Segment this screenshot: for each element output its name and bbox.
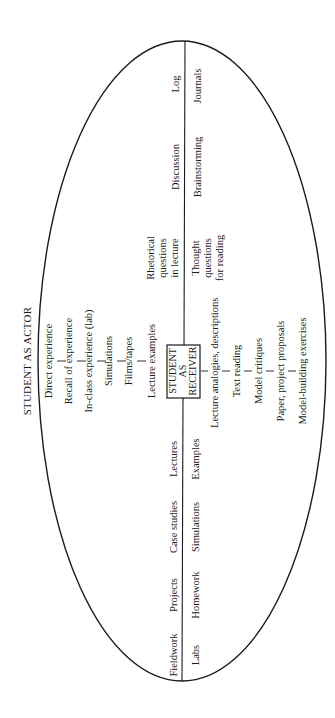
- chain-item: Simulations: [103, 336, 114, 386]
- chain-item: Paper, project proposals: [275, 321, 286, 422]
- chain-item: Text reading: [231, 344, 242, 397]
- axis-label-simulations: Simulations: [190, 502, 201, 552]
- axis-label-rhetorical: in lecture: [169, 238, 180, 278]
- chain-item: Recall of experience: [63, 318, 74, 405]
- title-student-as-actor: STUDENT AS ACTOR: [21, 306, 33, 415]
- axis-label-rhetorical: Rhetorical: [145, 236, 156, 280]
- axis-label-thought: Thought: [190, 240, 201, 276]
- axis-label-labs: Labs: [190, 645, 201, 665]
- chain-item: Model critiques: [253, 338, 264, 404]
- chain-item: Model-building exercises: [297, 317, 308, 424]
- receiver-chain: Lecture analogies, descriptions Text rea…: [201, 298, 308, 428]
- axis-label-log: Log: [170, 75, 181, 93]
- axis-label-brainstorming: Brainstorming: [192, 136, 203, 197]
- axis-label-homework: Homework: [190, 571, 201, 619]
- axis-lower-line: [182, 398, 183, 681]
- chain-item: Direct experience: [43, 323, 54, 398]
- axis-label-journals: Journals: [192, 69, 203, 104]
- chain-item: Lecture examples: [146, 324, 157, 398]
- axis-lower-labels: Lectures Examples Case studies Simulatio…: [168, 438, 201, 676]
- axis-label-discussion: Discussion: [170, 143, 181, 190]
- center-box-student-as-receiver: STUDENT AS RECEIVER: [167, 345, 200, 398]
- chain-item: Films/tapes: [123, 337, 134, 385]
- axis-label-examples: Examples: [190, 438, 201, 479]
- axis-label-projects: Projects: [168, 578, 179, 612]
- axis-label-fieldwork: Fieldwork: [168, 633, 179, 677]
- chain-item: Lecture analogies, descriptions: [209, 298, 220, 428]
- center-box-line: RECEIVER: [187, 346, 198, 395]
- axis-label-rhetorical: questions: [157, 238, 168, 278]
- axis-label-case-studies: Case studies: [168, 501, 179, 553]
- axis-upper-line: [184, 41, 185, 345]
- student-actor-receiver-diagram: STUDENT AS ACTOR Direct experience Recal…: [0, 0, 335, 718]
- axis-label-lectures: Lectures: [168, 441, 179, 477]
- actor-chain: Direct experience Recall of experience I…: [43, 309, 157, 413]
- chain-item: In-class experience (lab): [83, 309, 95, 413]
- axis-label-thought: questions: [202, 238, 213, 278]
- axis-label-thought: for reading: [214, 234, 225, 281]
